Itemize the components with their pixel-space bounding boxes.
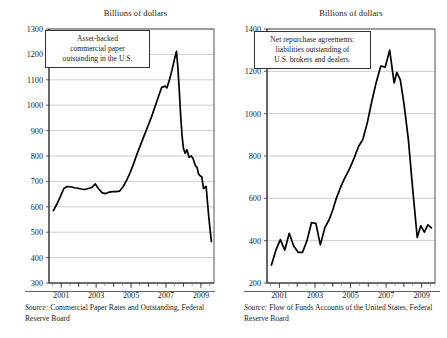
y-axis-tick-label: 1200 (27, 50, 43, 59)
y-axis-tick-label: 1000 (27, 101, 43, 110)
annotation-box-left: Asset-backed commercial paper outstandin… (45, 30, 150, 68)
y-axis-tick-label: 400 (31, 254, 43, 263)
x-axis-tick-label: 2003 (307, 291, 323, 300)
x-axis-tick-label: 2001 (271, 291, 287, 300)
annotation-line: commercial paper (51, 44, 144, 54)
y-axis-tick-label: 1000 (245, 110, 261, 119)
y-axis-tick-label: 600 (31, 203, 43, 212)
y-axis-tick-label: 300 (31, 279, 43, 288)
figure-root: Billions of dollars 30040050060070080090… (0, 0, 447, 338)
annotation-line: liabilities outstanding of (260, 45, 365, 55)
y-axis-tick-label: 500 (31, 228, 43, 237)
x-axis-tick-label: 2009 (413, 291, 429, 300)
source-note-right: Source: Flow of Funds Accounts of the Un… (244, 303, 440, 324)
y-axis-tick-label: 400 (249, 237, 261, 246)
source-text: Commercial Paper Rates and Outstanding, … (25, 303, 204, 322)
y-axis-tick-label: 700 (31, 177, 43, 186)
source-label: Source: (25, 303, 48, 312)
y-axis-tick-label: 1300 (27, 25, 43, 34)
x-axis-tick-label: 2007 (158, 291, 174, 300)
y-axis-tick-label: 900 (31, 127, 43, 136)
annotation-line: Asset-backed (51, 34, 144, 44)
divider-left (25, 291, 215, 292)
source-note-left: Source: Commercial Paper Rates and Outst… (25, 303, 221, 324)
y-axis-tick-label: 800 (249, 152, 261, 161)
annotation-box-right: Net repurchase agreements: liabilities o… (254, 31, 371, 69)
panel-asset-backed-commercial-paper: Billions of dollars 30040050060070080090… (0, 0, 223, 338)
y-axis-tick-label: 600 (249, 194, 261, 203)
annotation-line: outstanding in the U.S. (51, 54, 144, 64)
x-axis-tick-label: 2005 (123, 291, 139, 300)
x-axis-tick-label: 2001 (53, 291, 69, 300)
annotation-line: U.S. brokers and dealers. (260, 55, 365, 65)
data-series-line (271, 50, 431, 265)
x-axis-tick-label: 2009 (193, 291, 209, 300)
y-axis-tick-label: 1100 (27, 76, 43, 85)
annotation-line: Net repurchase agreements: (260, 35, 365, 45)
y-axis-tick-label: 800 (31, 152, 43, 161)
panel-net-repurchase-agreements: Billions of dollars 20040060080010001200… (223, 0, 447, 338)
x-axis-tick-label: 2005 (342, 291, 358, 300)
source-text: Flow of Funds Accounts of the United Sta… (244, 303, 432, 322)
y-axis-tick-label: 200 (249, 279, 261, 288)
source-label: Source: (244, 303, 267, 312)
x-axis-tick-label: 2007 (378, 291, 394, 300)
divider-right (244, 291, 440, 292)
x-axis-tick-label: 2003 (88, 291, 104, 300)
